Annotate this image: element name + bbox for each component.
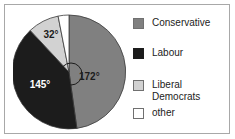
legend-label-labour: Labour [152, 47, 183, 59]
slice-label-labour: 145° [30, 79, 51, 90]
legend-swatch-conservative [133, 18, 144, 29]
legend-swatch-labour [133, 48, 144, 59]
legend-item-conservative[interactable]: Conservative [133, 17, 210, 29]
legend-swatch-other [133, 108, 144, 119]
legend-item-labour[interactable]: Labour [133, 47, 183, 59]
pie-chart-area: 172° 145° 32° [13, 9, 129, 131]
pie-svg: 172° 145° 32° [13, 9, 129, 131]
legend: Conservative Labour Liberal Democrats ot… [133, 17, 233, 129]
slice-label-conservative: 172° [79, 71, 100, 82]
legend-item-liberal-democrats[interactable]: Liberal Democrats [133, 79, 200, 103]
figure-frame: 172° 145° 32° Conservative Labour Libera… [4, 4, 230, 134]
legend-swatch-liberal-democrats [133, 80, 144, 91]
slice-label-liberal-democrats: 32° [43, 29, 58, 40]
legend-item-other[interactable]: other [133, 107, 175, 119]
pie-chart-figure: 172° 145° 32° Conservative Labour Libera… [0, 0, 235, 139]
legend-label-other: other [152, 107, 175, 119]
legend-label-conservative: Conservative [152, 17, 210, 29]
legend-label-liberal-democrats: Liberal Democrats [152, 79, 200, 103]
